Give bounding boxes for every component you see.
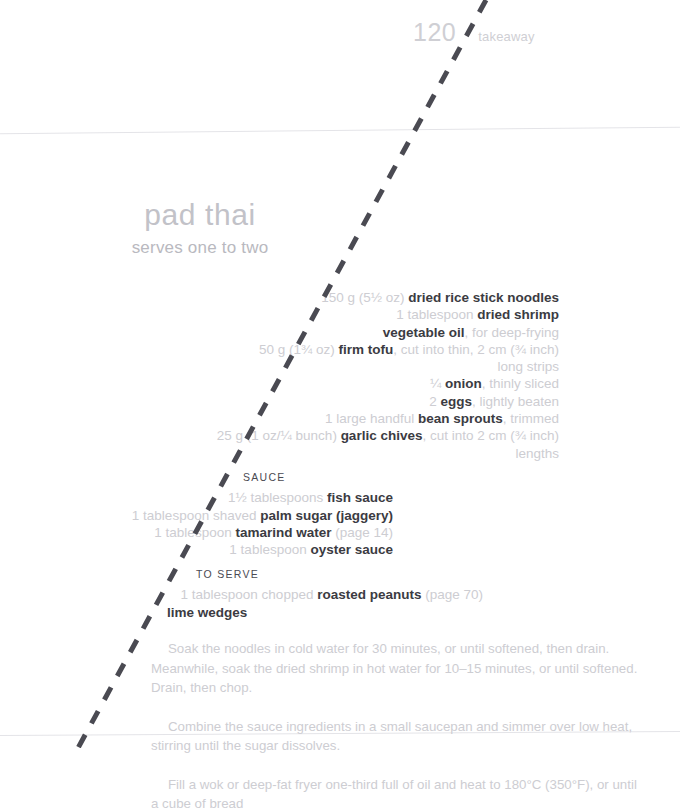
ingredient-prep: , thinly sliced [482,376,559,391]
ingredient-item: 1 tablespoon tamarind water (page 14) [0,524,393,541]
ingredient-name: firm tofu [338,342,393,357]
ingredient-quantity: 1 tablespoon [229,542,310,557]
ingredient-item: 50 g (1¾ oz) firm tofu, cut into thin, 2… [0,341,559,358]
ingredient-item: 2 eggs, lightly beaten [0,393,559,410]
ingredient-name: tamarind water [235,525,331,540]
ingredient-quantity: 1 tablespoon [154,525,235,540]
ingredient-quantity: 150 g (5½ oz) [321,290,408,305]
page-edge-top [0,127,680,135]
ingredient-name: fish sauce [327,490,393,505]
ingredient-name: palm sugar (jaggery) [260,508,393,523]
ingredient-item: vegetable oil, for deep-frying [0,324,559,341]
recipe-title-block: pad thai serves one to two [0,198,400,258]
page-title: pad thai [0,198,400,231]
ingredient-name: bean sprouts [418,411,503,426]
ingredient-prep: , for deep-frying [464,325,559,340]
ingredient-quantity: 1 large handful [325,411,418,426]
ingredient-item: ¼ onion, thinly sliced [0,375,559,392]
to-serve-heading: TO SERVE [0,566,483,583]
ingredient-quantity: 25 g (1 oz/¼ bunch) [217,428,341,443]
ingredient-item: 25 g (1 oz/¼ bunch) garlic chives, cut i… [0,427,559,444]
ingredient-quantity: 1½ tablespoons [228,490,327,505]
ingredient-item: 1 tablespoon chopped roasted peanuts (pa… [0,586,483,603]
method-paragraph: Soak the noodles in cold water for 30 mi… [151,639,647,698]
recipe-yield: serves one to two [0,238,400,258]
ingredient-prep: , cut into 2 cm (¾ inch) [422,428,559,443]
ingredient-item: 1 tablespoon oyster sauce [0,541,393,558]
ingredient-name: roasted peanuts [317,587,421,602]
ingredient-quantity: 1 tablespoon [396,307,477,322]
ingredient-item: 1 large handful bean sprouts, trimmed [0,410,559,427]
ingredient-name: oyster sauce [310,542,393,557]
ingredient-item: 150 g (5½ oz) dried rice stick noodles [0,289,559,306]
to-serve-subrecipe: TO SERVE 1 tablespoon chopped roasted pe… [0,566,483,621]
ingredient-prep: (page 70) [421,587,483,602]
ingredient-name: garlic chives [341,428,423,443]
ingredient-prep: , trimmed [503,411,559,426]
ingredient-list: 150 g (5½ oz) dried rice stick noodles1 … [0,289,559,462]
ingredient-quantity: 1 tablespoon chopped [181,587,318,602]
ingredient-quantity: 2 [429,394,440,409]
section-name: takeaway [478,30,535,45]
method-paragraph: Combine the sauce ingredients in a small… [151,717,647,756]
ingredient-quantity: 1 tablespoon shaved [132,508,260,523]
ingredient-quantity: ¼ [430,376,445,391]
ingredient-name: onion [445,376,482,391]
ingredient-name: lime wedges [167,605,247,620]
sauce-subrecipe: SAUCE 1½ tablespoons fish sauce1 tablesp… [0,469,393,558]
sauce-heading: SAUCE [0,469,393,486]
ingredient-prep: , cut into thin, 2 cm (¾ inch) [393,342,559,357]
page-number: 120 [413,20,456,45]
method-steps: Soak the noodles in cold water for 30 mi… [151,639,647,812]
ingredient-continuation: lengths [0,445,559,462]
ingredient-name: dried rice stick noodles [408,290,559,305]
method-paragraph: Fill a wok or deep-fat fryer one-third f… [151,775,647,812]
ingredient-item: 1 tablespoon dried shrimp [0,306,559,323]
ingredient-name: eggs [440,394,472,409]
ingredient-item: 1½ tablespoons fish sauce [0,489,393,506]
ingredient-item: lime wedges [0,604,483,621]
ingredient-item: 1 tablespoon shaved palm sugar (jaggery) [0,507,393,524]
ingredient-prep: , lightly beaten [472,394,559,409]
ingredient-name: dried shrimp [477,307,559,322]
ingredient-name: vegetable oil [383,325,465,340]
ingredient-prep: (page 14) [331,525,393,540]
to-serve-ingredient-list: 1 tablespoon chopped roasted peanuts (pa… [0,586,483,621]
running-head: 120 takeaway [413,20,535,45]
ingredient-quantity: 50 g (1¾ oz) [259,342,339,357]
ingredient-continuation: long strips [0,358,559,375]
sauce-ingredient-list: 1½ tablespoons fish sauce1 tablespoon sh… [0,489,393,558]
